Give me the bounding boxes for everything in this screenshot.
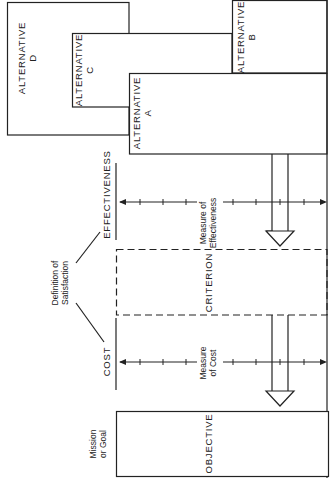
leader-line-cost bbox=[76, 303, 104, 342]
cost-label: COST bbox=[102, 342, 115, 382]
alternative-a-line2: A bbox=[143, 73, 154, 153]
down-arrow-cost-icon bbox=[266, 391, 294, 406]
arrowhead-left-icon bbox=[119, 359, 126, 365]
measure-cost-line2: of Cost bbox=[209, 343, 219, 383]
objective-box bbox=[117, 412, 329, 477]
alternative-d-line2: D bbox=[28, 18, 39, 98]
arrowhead-right-icon bbox=[320, 199, 327, 205]
alternative-a-box bbox=[130, 74, 328, 155]
diagram-lines bbox=[0, 0, 336, 478]
alternative-d-label: ALTERNATIVE D bbox=[17, 18, 43, 98]
alternative-c-line2: C bbox=[85, 30, 96, 110]
arrowhead-right-icon bbox=[320, 359, 327, 365]
effectiveness-label: EFFECTIVENESS bbox=[102, 150, 115, 240]
criterion-label: CRITERION bbox=[204, 243, 217, 323]
mission-line2: or Goal bbox=[99, 424, 109, 464]
alternative-b-line2: B bbox=[247, 0, 258, 77]
measure-of-cost-label: Measure of Cost bbox=[199, 343, 221, 383]
objective-label: OBJECTIVE bbox=[204, 404, 217, 478]
alternative-c-label: ALTERNATIVE C bbox=[74, 30, 100, 110]
criterion-box bbox=[117, 250, 328, 316]
mission-or-goal-label: Mission or Goal bbox=[89, 424, 111, 464]
definition-line2: Satisfaction bbox=[61, 253, 71, 313]
down-arrow-effectiveness-icon bbox=[266, 231, 294, 246]
alternative-a-label: ALTERNATIVE A bbox=[132, 73, 158, 153]
arrowhead-left-icon bbox=[119, 199, 126, 205]
leader-line-effectiveness bbox=[76, 232, 100, 263]
definition-of-satisfaction-label: Definition of Satisfaction bbox=[51, 253, 73, 313]
alternative-b-label: ALTERNATIVE B bbox=[236, 0, 262, 77]
